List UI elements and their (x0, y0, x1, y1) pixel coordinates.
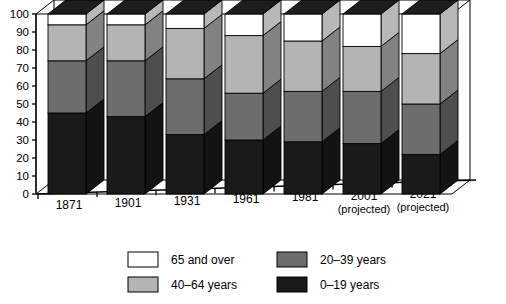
chart-legend: 65 and over20–39 years40–64 years0–19 ye… (128, 252, 386, 292)
bar-segment-0–19-years[interactable] (343, 144, 381, 194)
chart-container: 0102030405060708090100 18711901193119611… (0, 0, 506, 304)
bar-segment-20–39-years[interactable] (48, 61, 86, 113)
bar-segment-65-and-over[interactable] (48, 14, 86, 25)
legend-swatch (277, 252, 307, 267)
legend-label: 65 and over (171, 253, 234, 267)
legend-swatch (277, 277, 307, 292)
bar-segment-20–39-years[interactable] (166, 79, 204, 135)
bar-segment-20–39-years[interactable] (343, 91, 381, 143)
bar-segment-40–64-years[interactable] (48, 25, 86, 61)
bar-1901[interactable] (107, 0, 163, 194)
bar-2001[interactable] (343, 0, 399, 194)
y-tick-label: 70 (16, 62, 29, 74)
bar-segment-65-and-over[interactable] (225, 14, 263, 36)
y-tick-label: 50 (16, 98, 29, 110)
y-tick-label: 30 (16, 134, 29, 146)
legend-label: 20–39 years (320, 253, 386, 267)
bar-segment-20–39-years[interactable] (107, 61, 145, 117)
bar-segment-side (86, 99, 104, 194)
bar-segment-side (145, 103, 163, 194)
x-tick-label: 1871 (56, 198, 83, 212)
bar-segment-0–19-years[interactable] (225, 140, 263, 194)
y-tick-label: 20 (16, 152, 29, 164)
bar-segment-65-and-over[interactable] (166, 14, 204, 28)
y-axis: 0102030405060708090100 (10, 8, 36, 200)
bar-1961[interactable] (225, 0, 281, 194)
bar-1981[interactable] (284, 0, 340, 194)
bar-segment-40–64-years[interactable] (166, 28, 204, 78)
bar-segment-20–39-years[interactable] (402, 104, 440, 154)
bar-segment-65-and-over[interactable] (402, 14, 440, 54)
bar-segment-40–64-years[interactable] (343, 46, 381, 91)
bar-segment-65-and-over[interactable] (107, 14, 145, 25)
legend-label: 0–19 years (320, 278, 379, 292)
bar-segment-0–19-years[interactable] (48, 113, 86, 194)
x-tick-note: (projected) (397, 201, 450, 213)
x-tick-label: 1901 (115, 196, 142, 210)
bar-2021[interactable] (402, 0, 458, 194)
bar-1931[interactable] (166, 0, 222, 194)
legend-label: 40–64 years (171, 278, 237, 292)
bar-segment-0–19-years[interactable] (166, 135, 204, 194)
bar-segment-40–64-years[interactable] (225, 36, 263, 94)
bar-segment-40–64-years[interactable] (284, 41, 322, 91)
bar-segment-40–64-years[interactable] (107, 25, 145, 61)
bar-segment-65-and-over[interactable] (284, 14, 322, 41)
bars-group (48, 0, 458, 194)
stacked-bar-chart: 0102030405060708090100 18711901193119611… (0, 0, 506, 304)
bar-segment-0–19-years[interactable] (284, 142, 322, 194)
bar-segment-20–39-years[interactable] (225, 93, 263, 140)
legend-swatch (128, 277, 158, 292)
bar-segment-20–39-years[interactable] (284, 91, 322, 141)
legend-swatch (128, 252, 158, 267)
y-tick-label: 40 (16, 116, 29, 128)
y-tick-label: 60 (16, 80, 29, 92)
bar-1871[interactable] (48, 0, 104, 194)
bar-segment-0–19-years[interactable] (107, 117, 145, 194)
bar-segment-40–64-years[interactable] (402, 54, 440, 104)
bar-segment-0–19-years[interactable] (402, 154, 440, 194)
bar-segment-65-and-over[interactable] (343, 14, 381, 46)
x-tick-note: (projected) (338, 203, 391, 215)
y-tick-label: 100 (10, 8, 29, 20)
y-tick-label: 90 (16, 26, 29, 38)
y-tick-label: 10 (16, 170, 29, 182)
y-tick-label: 80 (16, 44, 29, 56)
x-tick-label: 1931 (174, 194, 201, 208)
y-tick-label: 0 (23, 188, 29, 200)
